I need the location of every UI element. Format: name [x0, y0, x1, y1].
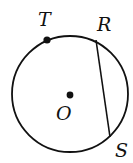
label-t: T [38, 8, 52, 30]
chord-rs [96, 40, 110, 137]
point-t-dot [43, 36, 50, 43]
center-o-dot [67, 92, 74, 99]
label-o: O [56, 102, 72, 124]
label-r: R [96, 13, 111, 35]
circle-diagram: T R O S [0, 0, 133, 163]
label-s: S [115, 139, 128, 161]
